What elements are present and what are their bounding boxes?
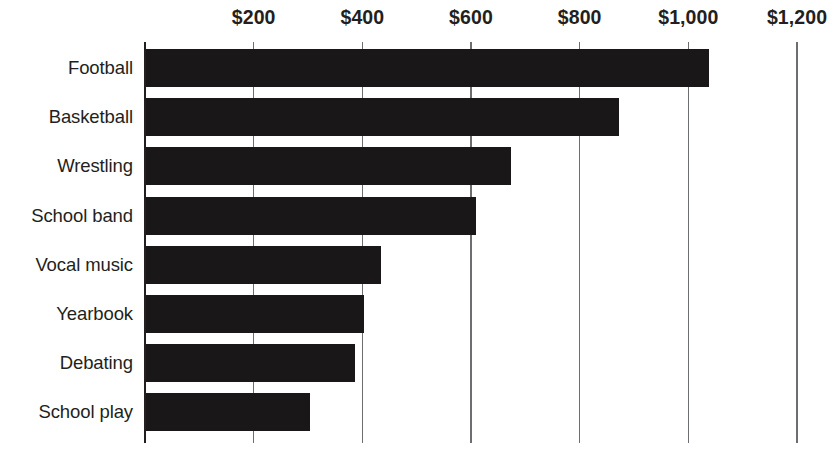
- bars: [0, 0, 835, 455]
- bar-football: [146, 49, 709, 87]
- bar-debating: [146, 344, 355, 382]
- horizontal-bar-chart: $200 $400 $600 $800 $1,000 $1,200 Footba…: [0, 0, 835, 455]
- bar-vocal-music: [146, 246, 381, 284]
- bar-school-play: [146, 393, 310, 431]
- bar-yearbook: [146, 295, 364, 333]
- bar-basketball: [146, 98, 619, 136]
- bar-wrestling: [146, 147, 511, 185]
- bar-school-band: [146, 197, 476, 235]
